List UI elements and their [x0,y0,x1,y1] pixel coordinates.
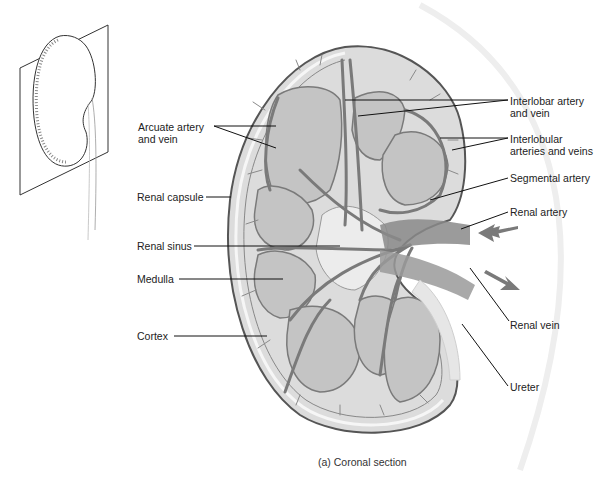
label-renal-capsule: Renal capsule [137,191,204,203]
kidney-coronal-section-diagram [0,0,614,488]
figure-caption: (a) Coronal section [318,456,407,468]
label-arcuate-artery-vein: Arcuate artery and vein [138,121,204,145]
label-renal-sinus: Renal sinus [137,240,192,252]
label-medulla: Medulla [137,273,174,285]
label-interlobar-artery-vein: Interlobar artery and vein [510,95,584,119]
kidney-body [228,46,475,432]
label-renal-vein: Renal vein [510,319,560,331]
label-ureter: Ureter [510,381,539,393]
blood-flow-arrows [478,224,520,290]
inset-kidney-plane-icon [20,25,108,240]
label-segmental-artery: Segmental artery [510,172,590,184]
label-renal-artery: Renal artery [510,206,567,218]
label-cortex: Cortex [137,330,168,342]
label-interlobular-arteries-veins: Interlobular arteries and veins [510,133,593,157]
